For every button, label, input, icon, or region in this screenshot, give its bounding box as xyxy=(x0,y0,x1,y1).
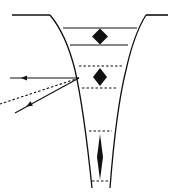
light-rays xyxy=(0,75,79,113)
trough-diagram xyxy=(0,0,174,195)
diamond-marker-lower xyxy=(97,134,103,180)
band-upper xyxy=(63,28,137,45)
right-wall-curve xyxy=(110,15,146,188)
layer-bands xyxy=(63,28,137,181)
diagram-svg xyxy=(0,0,174,195)
left-wall-curve xyxy=(50,15,92,188)
band-lower xyxy=(89,131,112,181)
diamond-marker-middle xyxy=(93,68,107,86)
diamond-marker-upper xyxy=(92,29,108,45)
ray-incident xyxy=(15,78,79,113)
arrowhead-icon-reflected xyxy=(21,75,27,80)
band-middle xyxy=(79,66,122,88)
